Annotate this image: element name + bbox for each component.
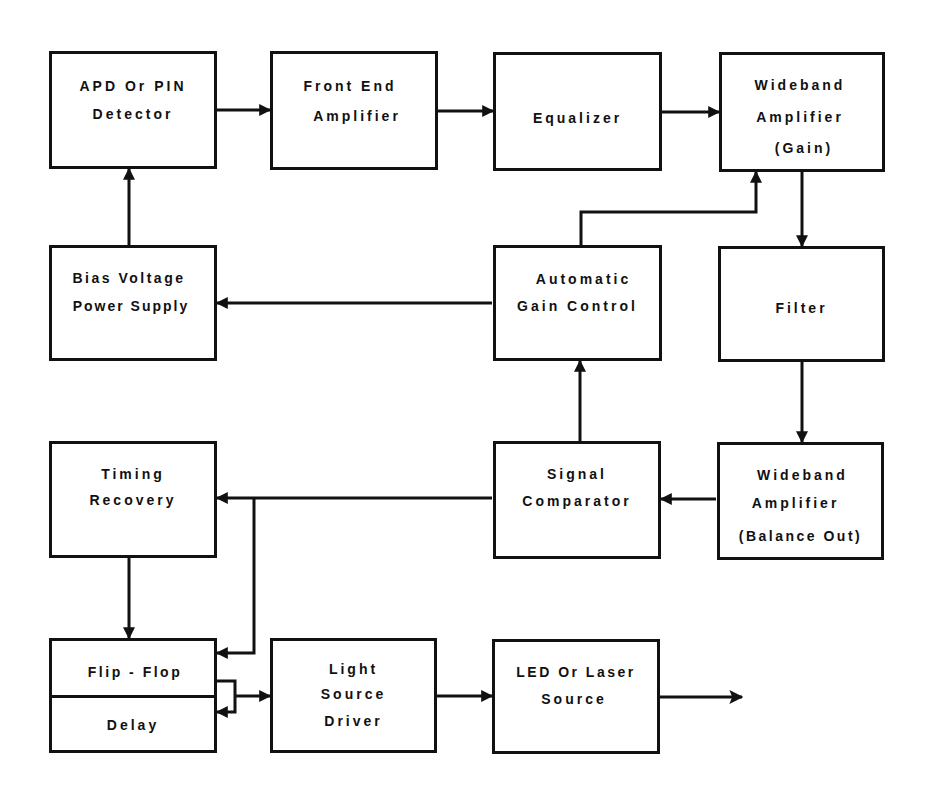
arrow-comparator-to-flipflop — [217, 498, 254, 653]
block-label: Wideband — [718, 77, 882, 93]
block-label: Amplifier — [279, 108, 435, 124]
block-label: Gain Control — [496, 298, 659, 314]
block-label: Automatic — [508, 271, 659, 287]
block-label: Equalizer — [496, 110, 659, 126]
block-label: Comparator — [496, 493, 658, 509]
block-front-end-amplifier: Front End Amplifier — [270, 51, 438, 170]
block-automatic-gain-control: Automatic Gain Control — [493, 245, 662, 361]
block-label: Driver — [273, 713, 434, 729]
block-label: Bias Voltage — [44, 270, 214, 286]
block-filter: Filter — [718, 246, 885, 362]
arrow-flipflop-to-delay — [217, 681, 235, 712]
block-label: APD Or PIN — [52, 78, 214, 94]
block-label: Source — [491, 691, 657, 707]
block-signal-comparator: Signal Comparator — [493, 441, 661, 559]
block-equalizer: Equalizer — [493, 52, 662, 171]
block-label: Detector — [52, 106, 214, 122]
block-apd-detector: APD Or PIN Detector — [49, 51, 217, 169]
block-label: Light — [273, 661, 434, 677]
block-label: Source — [273, 686, 434, 702]
divider-line — [52, 695, 214, 698]
block-label: Recovery — [52, 492, 214, 508]
optical-repeater-block-diagram: APD Or PIN Detector Front End Amplifier … — [0, 0, 934, 803]
block-label: Timing — [52, 466, 214, 482]
block-label: Signal — [496, 466, 658, 482]
block-label: Wideband — [724, 467, 881, 483]
block-label-flipflop: Flip - Flop — [56, 664, 214, 680]
block-label: Power Supply — [48, 298, 214, 314]
block-light-source-driver: Light Source Driver — [270, 638, 437, 753]
block-bias-voltage-power-supply: Bias Voltage Power Supply — [49, 245, 217, 361]
block-label: Amplifier — [710, 495, 881, 511]
block-label: Front End — [265, 78, 435, 94]
block-label-delay: Delay — [52, 717, 214, 733]
block-label: (Gain) — [726, 140, 882, 156]
block-label: Amplifier — [718, 109, 882, 125]
arrow-agc-to-wideband-gain — [581, 172, 756, 245]
block-flipflop-delay: Flip - Flop Delay — [49, 638, 217, 753]
block-wideband-amplifier-gain: Wideband Amplifier (Gain) — [719, 52, 885, 172]
block-wideband-amplifier-balance-out: Wideband Amplifier (Balance Out) — [717, 442, 884, 560]
block-label: LED Or Laser — [495, 664, 657, 680]
block-label: Filter — [721, 300, 882, 316]
block-label: (Balance Out) — [720, 528, 881, 544]
block-timing-recovery: Timing Recovery — [49, 441, 217, 558]
block-led-or-laser-source: LED Or Laser Source — [492, 639, 660, 754]
